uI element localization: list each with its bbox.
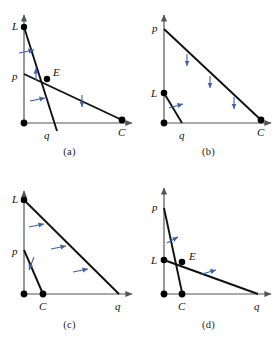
point-L (161, 257, 168, 264)
label-p: p (151, 22, 158, 34)
label-C: C (178, 300, 186, 312)
point-C (258, 117, 265, 124)
label-E: E (188, 250, 196, 262)
direction-markers (29, 224, 88, 272)
label-C: C (118, 126, 126, 138)
marker-2 (202, 270, 216, 274)
caption-a: (a) (0, 146, 139, 157)
caption-d: (d) (139, 319, 278, 330)
segment-p-C (24, 74, 122, 120)
label-q: q (179, 129, 185, 141)
label-C: C (257, 126, 265, 138)
panel-b: p L q C (b) (139, 0, 278, 173)
label-q: q (44, 129, 50, 141)
segment-p-C (24, 250, 43, 294)
panel-a: L p E q C (a) (0, 0, 139, 173)
marker-1 (29, 224, 44, 227)
label-L: L (11, 193, 18, 205)
segment-L-q (24, 27, 57, 131)
panel-d: p L E C q (d) (139, 173, 278, 346)
direction-markers (169, 54, 234, 109)
label-p: p (11, 70, 18, 82)
segment-p-C (164, 29, 261, 120)
caption-c: (c) (0, 319, 139, 330)
point-origin (161, 120, 168, 127)
point-E (179, 259, 186, 266)
point-origin (161, 291, 168, 298)
point-L (161, 90, 168, 97)
point-origin (21, 291, 28, 298)
marker-3 (30, 98, 45, 101)
label-L: L (11, 20, 18, 32)
marker-1 (167, 237, 178, 243)
segment-L-q (164, 93, 182, 123)
label-q: q (254, 300, 260, 312)
point-C (119, 117, 126, 124)
label-L: L (150, 87, 157, 99)
point-E (44, 76, 50, 82)
marker-2 (51, 246, 66, 249)
panel-c: L p C q (c) (0, 173, 139, 346)
direction-markers (19, 50, 82, 107)
point-C (179, 291, 186, 298)
label-L: L (150, 254, 157, 266)
point-L (21, 197, 28, 204)
label-E: E (52, 66, 60, 78)
figure-panel-grid: L p E q C (a) (0, 0, 278, 346)
marker-3 (73, 269, 88, 272)
point-origin (21, 120, 28, 127)
point-C (40, 291, 47, 298)
label-q: q (115, 300, 121, 312)
point-L (21, 24, 27, 30)
caption-b: (b) (139, 146, 278, 157)
segment-L-q (24, 200, 119, 294)
segment-p-C (164, 208, 183, 297)
label-p: p (151, 201, 158, 213)
label-p: p (11, 245, 18, 257)
label-C: C (39, 300, 47, 312)
